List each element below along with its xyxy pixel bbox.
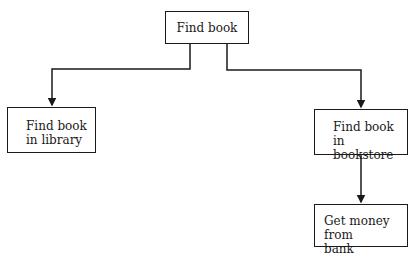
edge-root-to-bookstore: [227, 44, 361, 107]
node-label: Get money from bank: [315, 205, 407, 256]
node-find-book-in-library: Find book in library: [7, 107, 96, 153]
node-get-money-from-bank: Get money from bank: [314, 204, 408, 247]
node-label: Find book: [166, 12, 248, 35]
edge-root-to-library: [52, 44, 190, 105]
node-find-book-in-bookstore: Find book in bookstore: [314, 109, 408, 155]
node-find-book: Find book: [165, 11, 249, 44]
node-label: Find book in library: [8, 108, 95, 147]
node-label: Find book in bookstore: [315, 110, 407, 162]
